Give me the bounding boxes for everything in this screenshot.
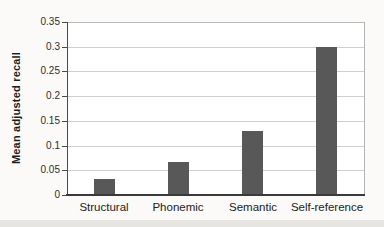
page-scan-band [0, 220, 384, 227]
y-tick-label: 0.15 [0, 116, 60, 126]
x-category-label: Self-reference [277, 201, 377, 213]
y-tick-label: 0.1 [0, 141, 60, 151]
y-tick-label: 0.05 [0, 165, 60, 175]
x-axis-line [66, 194, 365, 196]
bar [94, 179, 115, 195]
y-axis-title: Mean adjusted recall [10, 52, 22, 164]
y-tick-label: 0.35 [0, 17, 60, 27]
y-tick-label: 0 [0, 190, 60, 200]
bar-chart-figure: 00.050.10.150.20.250.30.35StructuralPhon… [0, 0, 384, 227]
y-tick-label: 0.25 [0, 66, 60, 76]
y-tick-label: 0.3 [0, 42, 60, 52]
bar [168, 162, 189, 195]
y-axis-line [67, 22, 68, 195]
y-tick-label: 0.2 [0, 91, 60, 101]
bar [316, 47, 337, 195]
plot-border-top [67, 22, 365, 23]
plot-border-right [364, 22, 365, 195]
bar [242, 131, 263, 195]
